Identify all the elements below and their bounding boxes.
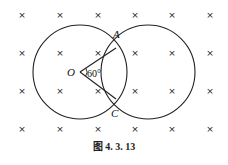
field-cross-icon: × [18,86,26,96]
field-cross-icon: × [206,48,214,58]
field-cross-icon: × [206,10,214,20]
point-label-a: A [112,28,120,40]
field-cross-icon: × [131,10,139,20]
field-cross-icon: × [56,48,64,58]
field-cross-icon: × [56,124,64,134]
field-cross-icon: × [18,10,26,20]
field-cross-icon: × [18,48,26,58]
field-cross-icon: × [206,86,214,96]
field-cross-icon: × [206,124,214,134]
field-cross-icon: × [131,86,139,96]
field-cross-icon: × [94,124,102,134]
field-cross-icon: × [168,124,176,134]
point-label-c: C [111,107,119,119]
field-cross-icon: × [56,86,64,96]
field-cross-icon: × [168,86,176,96]
field-cross-icon: × [131,48,139,58]
field-cross-icon: × [18,124,26,134]
field-cross-icon: × [56,10,64,20]
point-label-o: O [67,66,75,78]
angle-label: 60° [87,68,101,79]
field-cross-icon: × [168,10,176,20]
field-cross-icon: × [168,48,176,58]
field-cross-icon: × [94,48,102,58]
field-cross-icon: × [94,10,102,20]
figure-caption: 图 4. 3. 13 [0,138,228,153]
field-cross-icon: × [131,124,139,134]
